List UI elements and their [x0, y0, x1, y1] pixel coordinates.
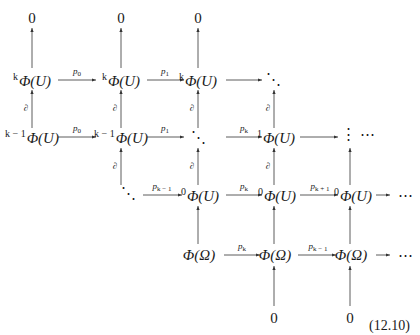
boundary-label: ∂ [113, 103, 117, 113]
k-phi-u-node: kΦ(U) [179, 72, 217, 89]
arrow-label-pk: pk [240, 123, 248, 135]
phi-omega-node: Φ(Ω) [183, 248, 215, 263]
k-minus-1-phi-u-node: k − 1Φ(U) [5, 129, 59, 146]
boundary-label: ∂ [190, 161, 194, 171]
phi-omega-node: Φ(Ω) [259, 248, 291, 263]
arrow-label-pk-minus-1: pk − 1 [153, 181, 172, 193]
phi-omega-node: Φ(Ω) [335, 248, 367, 263]
zero-node: 0 [117, 11, 125, 26]
boundary-label: ∂ [266, 161, 270, 171]
arrow-label-p0: p0 [73, 66, 81, 78]
ddots-node: ⋱ [191, 130, 206, 145]
arrow-label-pk: pk [238, 241, 246, 253]
k-minus-1-phi-u-node: k − 1Φ(U) [94, 129, 148, 146]
arrow-label-p0: p0 [73, 123, 81, 135]
arrow-label-p1: p1 [161, 66, 169, 78]
ddots-node: ⋱ [121, 186, 136, 201]
equation-number: (12.10) [369, 318, 410, 334]
zero-phi-u-node: 0Φ(U) [181, 187, 219, 204]
cdots-node: ⋯ [398, 188, 413, 203]
one-phi-u-node: 1Φ(U) [257, 129, 295, 146]
k-phi-u-node: kΦ(U) [102, 72, 140, 89]
vdots-cdots-node: ⋮ ⋯ [341, 127, 375, 142]
commutative-diagram: 0 0 0 kΦ(U) kΦ(U) kΦ(U) ⋱ p0 p1 ∂ ∂ ∂ ∂ … [0, 0, 420, 335]
arrow-label-pk-minus-1: pk − 1 [309, 241, 328, 253]
ddots-node: ⋱ [266, 72, 281, 87]
arrow-label-pk: pk [240, 181, 248, 193]
zero-node: 0 [194, 11, 202, 26]
zero-phi-u-node: 0Φ(U) [258, 187, 296, 204]
arrow-label-pk-plus-1: pk + 1 [311, 181, 330, 193]
k-phi-u-node: kΦ(U) [13, 72, 51, 89]
zero-node: 0 [28, 11, 36, 26]
zero-node: 0 [270, 311, 278, 326]
boundary-label: ∂ [113, 161, 117, 171]
boundary-label: ∂ [266, 103, 270, 113]
boundary-label: ∂ [190, 103, 194, 113]
zero-node: 0 [346, 311, 354, 326]
zero-phi-u-node: 0Φ(U) [334, 187, 372, 204]
cdots-node: ⋯ [398, 248, 413, 263]
boundary-label: ∂ [24, 103, 28, 113]
arrow-label-p1: p1 [161, 123, 169, 135]
arrow-layer [0, 0, 420, 335]
